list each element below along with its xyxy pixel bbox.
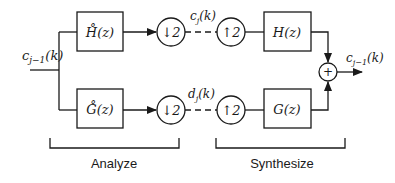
bottom-to-sum bbox=[311, 82, 328, 110]
analyze-bracket bbox=[50, 138, 179, 148]
synthesize-bracket bbox=[216, 138, 345, 148]
downsample-top-label: ↓2 bbox=[161, 25, 180, 40]
upsample-bottom-label: ↑2 bbox=[221, 103, 240, 118]
synthesize-label: Synthesize bbox=[250, 156, 314, 171]
signal-d-label: dj(k) bbox=[188, 87, 215, 103]
input-label: cj−1(k) bbox=[22, 48, 63, 65]
top-to-sum bbox=[311, 32, 328, 62]
sum-label: + bbox=[323, 65, 333, 79]
synthesis-g-label: G(z) bbox=[273, 102, 300, 117]
analyze-label: Analyze bbox=[91, 156, 137, 171]
analysis-h-label: H̊(z) bbox=[85, 23, 114, 40]
output-label: cj−1(k) bbox=[346, 51, 384, 67]
analysis-g-label: G̊(z) bbox=[86, 100, 113, 117]
synthesis-h-label: H(z) bbox=[272, 25, 301, 40]
upsample-top-label: ↑2 bbox=[221, 25, 240, 40]
signal-c-label: cj(k) bbox=[190, 9, 216, 25]
filter-bank-diagram: cj−1(k) H̊(z) ↓2 cj(k) ↑2 H(z) G̊(z) ↓2 … bbox=[0, 0, 395, 183]
downsample-bottom-label: ↓2 bbox=[161, 103, 180, 118]
